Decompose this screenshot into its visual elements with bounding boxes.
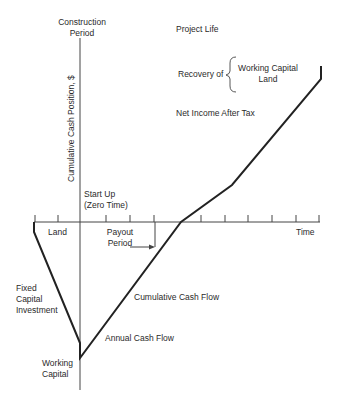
net-income-label: Net Income After Tax [176, 108, 255, 119]
construction-period-label: Construction Period [52, 17, 112, 39]
annual-cash-flow-label: Annual Cash Flow [105, 333, 174, 344]
label-line: Period [52, 28, 112, 39]
working-capital-label: Working Capital [42, 358, 73, 380]
project-life-label: Project Life [176, 24, 219, 35]
recovery-of-label: Recovery of [178, 69, 223, 80]
recovery-land: Land [234, 74, 302, 85]
payout-period-label: Payout Period [100, 227, 140, 249]
label-line: Investment [16, 305, 58, 316]
arrowhead-icon [149, 245, 155, 250]
recovery-items: Working Capital Land [234, 63, 302, 85]
fixed-capital-label: Fixed Capital Investment [16, 283, 58, 316]
label-line: Fixed [16, 283, 58, 294]
label-line: Capital [42, 369, 73, 380]
cumulative-cash-flow-label: Cumulative Cash Flow [134, 292, 219, 303]
label-line: Payout [100, 227, 140, 238]
land-label: Land [48, 227, 67, 238]
label-line: Capital [16, 294, 58, 305]
time-axis-ticks [35, 215, 319, 222]
label-line: (Zero Time) [84, 200, 128, 211]
time-label: Time [296, 227, 315, 238]
label-line: Period [100, 238, 140, 249]
label-line: Working [42, 358, 73, 369]
y-axis-label: Cumulative Cash Position, $ [66, 75, 76, 182]
label-line: Start Up [84, 189, 128, 200]
start-up-label: Start Up (Zero Time) [84, 189, 128, 211]
label-line: Construction [52, 17, 112, 28]
recovery-working-capital: Working Capital [234, 63, 302, 74]
